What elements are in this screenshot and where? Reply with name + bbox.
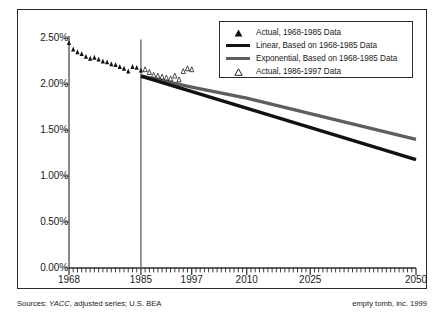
- legend-item-actual-1986-1997: Actual, 1986-1997 Data: [220, 65, 412, 78]
- legend-item-actual-1968-1985: Actual, 1968-1985 Data: [220, 26, 412, 39]
- x-tick-label: 1968: [58, 275, 80, 285]
- x-tick-label: 1985: [130, 275, 152, 285]
- chart-figure: 0.00%0.50%1.00%1.50%2.00%2.50% 196819851…: [0, 0, 443, 323]
- legend-label-exponential: Exponential, Based on 1968-1985 Data: [256, 54, 397, 63]
- sources-prefix: Sources:: [17, 299, 49, 308]
- legend-item-linear: Linear, Based on 1968-1985 Data: [220, 39, 412, 52]
- gray-line-icon: [220, 57, 256, 60]
- legend-label-linear: Linear, Based on 1968-1985 Data: [256, 41, 377, 50]
- legend-label-actual-1986-1997: Actual, 1986-1997 Data: [256, 67, 341, 76]
- x-tick-label: 2010: [236, 275, 258, 285]
- x-tick-label: 2025: [299, 275, 321, 285]
- legend-label-actual-1968-1985: Actual, 1968-1985 Data: [256, 28, 341, 37]
- chart-legend: Actual, 1968-1985 Data Linear, Based on …: [219, 21, 413, 78]
- sources-italic: YACC: [49, 299, 70, 308]
- filled-triangle-icon: [220, 29, 256, 37]
- open-triangle-icon: [220, 68, 256, 76]
- sources-rest: , adjusted series; U.S. BEA: [70, 299, 162, 308]
- sources-note: Sources: YACC, adjusted series; U.S. BEA: [17, 299, 161, 308]
- credit-note: empty tomb, inc. 1999: [352, 299, 427, 308]
- chart-frame: 0.00%0.50%1.00%1.50%2.00%2.50% 196819851…: [17, 9, 427, 289]
- black-line-icon: [220, 44, 256, 47]
- x-tick-label: 1997: [181, 275, 203, 285]
- figure-footer: Sources: YACC, adjusted series; U.S. BEA…: [17, 296, 427, 310]
- legend-item-exponential: Exponential, Based on 1968-1985 Data: [220, 52, 412, 65]
- x-tick-label: 2050: [405, 275, 427, 285]
